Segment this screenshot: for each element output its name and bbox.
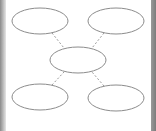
node-bottom-left[interactable] [12, 84, 68, 110]
diagram-frame [0, 0, 156, 131]
edge-bottom-left-center [52, 72, 64, 85]
edge-bottom-right-center [92, 72, 104, 86]
node-center[interactable] [50, 47, 106, 73]
nodes [12, 8, 144, 111]
spider-diagram [0, 0, 156, 131]
edge-top-right-center [92, 33, 104, 48]
node-top-left[interactable] [12, 8, 68, 34]
node-bottom-right[interactable] [88, 85, 144, 111]
node-top-right[interactable] [88, 8, 144, 34]
edge-top-left-center [52, 33, 64, 48]
